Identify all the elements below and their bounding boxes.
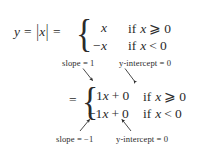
absolute-value-piecewise-figure: y=|x|= { x ifx⩾0 −x ifx<0 slope = 1 y-in… <box>0 0 212 156</box>
block1-case2-value: −x <box>92 38 107 54</box>
block1-case1-condition: ifx⩾0 <box>128 20 171 37</box>
condition-value: 0 <box>164 21 171 36</box>
equation-lead: y=|x|= <box>14 25 65 39</box>
block1-case1-expression: x <box>101 20 107 35</box>
condition-value: 0 <box>175 106 182 121</box>
annotation-slope-top: slope = 1 <box>62 58 94 68</box>
block2-case2-intercept: 0 <box>122 106 129 121</box>
block1-case1-value: x <box>101 20 107 36</box>
plus-sign: + <box>111 106 119 121</box>
equation-second-equals: = <box>69 93 77 107</box>
block2-case2-condition: ifx<0 <box>143 106 182 122</box>
condition-value: 0 <box>160 38 167 53</box>
condition-variable: x <box>155 89 161 104</box>
abs-bar-open: | <box>36 23 40 41</box>
block1-case2-condition: ifx<0 <box>128 38 167 54</box>
block2-case2-coefficient: −1 <box>88 106 102 121</box>
variable-y: y <box>14 24 20 39</box>
block2-case1-intercept: 0 <box>122 88 129 103</box>
equals-sign-1: = <box>24 24 32 39</box>
annotation-slope-bottom-text: slope = −1 <box>56 134 93 144</box>
if-keyword: if <box>128 21 136 36</box>
condition-value: 0 <box>179 89 186 104</box>
block2-case2-value: −1x+0 <box>88 106 129 122</box>
block2-case1-condition: ifx⩾0 <box>143 88 186 105</box>
relation-geq-icon: ⩾ <box>164 89 176 104</box>
block1-case2-expression: −x <box>92 38 107 53</box>
annotation-yintercept-bottom: y-intercept = 0 <box>116 134 168 144</box>
block2-case1-value: 1x+0 <box>96 88 129 104</box>
block2-case1-coefficient: 1 <box>96 88 103 103</box>
annotation-yintercept-top: y-intercept = 0 <box>119 58 171 68</box>
condition-variable: x <box>155 106 161 121</box>
block2-case1-variable: x <box>103 88 109 103</box>
if-keyword: if <box>128 38 136 53</box>
annotation-slope-top-text: slope = 1 <box>62 58 94 68</box>
plus-sign: + <box>112 88 120 103</box>
if-keyword: if <box>143 106 151 121</box>
condition-variable: x <box>140 21 146 36</box>
annotation-yintercept-top-text: y-intercept = 0 <box>119 58 171 68</box>
brace-block-1: { <box>76 14 92 54</box>
relation-less-than-icon: < <box>149 38 157 53</box>
annotation-yintercept-bottom-text: y-intercept = 0 <box>116 134 168 144</box>
relation-less-than-icon: < <box>164 106 172 121</box>
annotation-slope-bottom: slope = −1 <box>56 134 93 144</box>
equals-sign-3: = <box>69 92 77 107</box>
condition-variable: x <box>140 38 146 53</box>
arrow-yintercept-top <box>125 69 134 81</box>
equals-sign-2: = <box>53 24 61 39</box>
block2-case2-variable: x <box>102 106 108 121</box>
if-keyword: if <box>143 89 151 104</box>
abs-bar-close: | <box>45 23 49 41</box>
relation-geq-icon: ⩾ <box>149 21 161 36</box>
